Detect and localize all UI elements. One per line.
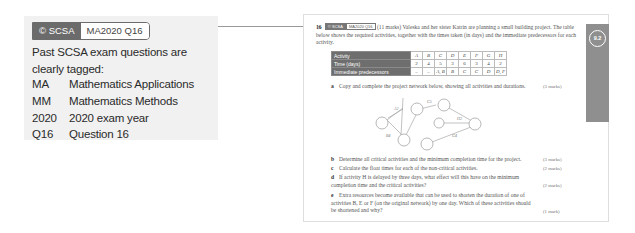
tag-explanation-callout: © SCSA MA2020 Q16 Past SCSA exam questio…	[24, 16, 218, 140]
legend-row: MAMathematics Applications	[32, 78, 194, 90]
tag-source: © SCSA	[33, 23, 81, 39]
callout-connector-line	[218, 26, 312, 27]
question-tag-code: MA2020 Q16	[346, 23, 376, 30]
section-badge: 9.2	[589, 30, 606, 47]
question-marks: (11 marks)	[377, 24, 401, 30]
question-header: 16 © SCSAMA2020 Q16 (11 marks) Valeska a…	[316, 23, 578, 47]
part-e: eExtra resources become available that c…	[331, 192, 531, 215]
svg-text:H2: H2	[456, 116, 462, 121]
tag-code: MA2020 Q16	[81, 23, 149, 39]
svg-text:A2: A2	[393, 106, 398, 111]
section-tab: 9.2	[586, 24, 609, 122]
svg-text:B4: B4	[386, 133, 390, 138]
part-d: dIf activity H is delayed by three days,…	[331, 174, 531, 189]
exam-tag: © SCSA MA2020 Q16	[32, 22, 150, 40]
question-tag-source: © SCSA	[325, 23, 346, 30]
activity-table: Activity A B C D E F G H Time (days) 2 4…	[331, 51, 507, 76]
legend-row: Q16Question 16	[32, 128, 129, 140]
part-b-marks: (3 marks)	[543, 157, 562, 162]
legend-row: MMMathematics Methods	[32, 95, 178, 107]
svg-text:G4: G4	[452, 133, 457, 138]
part-a-marks: (3 marks)	[543, 84, 562, 89]
svg-text:C5: C5	[427, 99, 432, 104]
part-d-marks: (2 marks)	[543, 183, 562, 188]
question-number: 16	[316, 24, 322, 30]
legend-row: 20202020 exam year	[32, 112, 149, 124]
part-c-marks: (2 marks)	[543, 166, 562, 171]
part-e-marks: (1 mark)	[543, 209, 560, 214]
project-network-diagram: A2 B4 C5 H2 G4	[372, 92, 522, 152]
callout-intro: Past SCSA exam questions are clearly tag…	[32, 44, 212, 78]
